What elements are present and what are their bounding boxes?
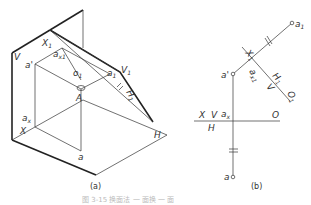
equal-mark-1 — [117, 83, 121, 87]
x1-axis — [50, 30, 153, 122]
label-X: X — [19, 126, 27, 136]
label-X-b: X — [198, 110, 206, 120]
panel-a-pictorial: V X1 ax1 a' o1 a1 V1 H1 A ax X a H (a) — [12, 10, 167, 191]
label-A: A — [75, 93, 82, 103]
ax-to-a — [35, 127, 81, 151]
panel-b-label: (b) — [251, 182, 262, 191]
label-V2-b: V — [211, 110, 218, 120]
panel-b-orthographic: a1 X1 a' ax1 H1 V O1 X V ax O H a (b) — [194, 19, 304, 191]
label-a-prime-b: a' — [221, 70, 229, 80]
label-a-prime: a' — [25, 60, 33, 70]
v1-inner-line — [50, 30, 120, 72]
figure-caption: 图 3-15 换面法 一 面换 一 面 — [82, 195, 174, 204]
label-ax1-b: ax1 — [246, 67, 262, 84]
label-H-b: H — [208, 123, 215, 133]
label-H: H — [154, 130, 161, 140]
label-O-b: O — [272, 110, 279, 120]
panel-a-label: (a) — [90, 182, 101, 191]
point-a1 — [290, 21, 294, 25]
label-ax: ax — [22, 113, 32, 124]
label-ax-b: ax — [221, 109, 231, 120]
point-a — [231, 175, 235, 179]
label-X1: X1 — [41, 38, 52, 49]
label-a-b: a — [224, 172, 230, 182]
a-prime-to-a1-line — [233, 23, 292, 74]
label-o1: o1 — [73, 68, 82, 79]
x-axis-ext — [35, 100, 83, 127]
label-a: a — [78, 152, 84, 162]
label-V-b: V — [265, 82, 277, 94]
projection-diagram: V X1 ax1 a' o1 a1 V1 H1 A ax X a H (a) — [0, 0, 311, 205]
A-to-a1 — [81, 74, 110, 89]
v-plane-top-edge-2 — [50, 10, 83, 30]
h-plane-right-edge — [96, 135, 167, 175]
label-V1: V1 — [121, 65, 131, 76]
label-V: V — [14, 52, 21, 62]
equal-mark-2 — [119, 86, 123, 90]
label-a1-b: a1 — [295, 19, 304, 30]
point-a-prime — [231, 72, 235, 76]
